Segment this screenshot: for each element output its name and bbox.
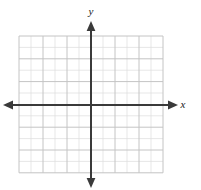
- coordinate-plane-svg: x y: [0, 0, 201, 190]
- x-axis-label: x: [180, 98, 186, 110]
- coordinate-plane-figure: x y: [0, 0, 201, 190]
- y-axis-label: y: [88, 5, 94, 17]
